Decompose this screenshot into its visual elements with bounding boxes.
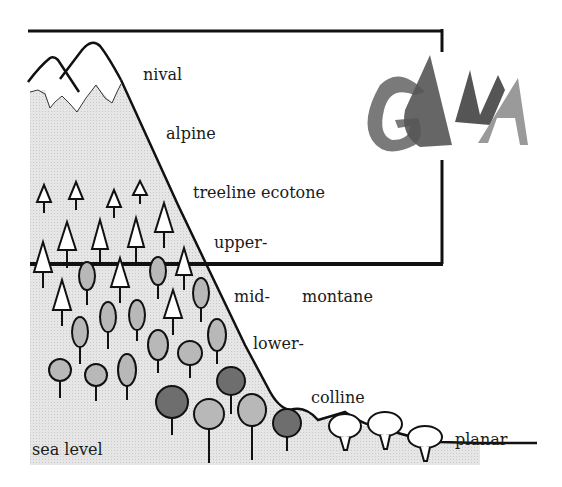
label-mid: mid- bbox=[234, 287, 270, 306]
vegetation-belts-diagram: nival alpine treeline ecotone upper- mid… bbox=[0, 0, 562, 487]
label-colline: colline bbox=[311, 388, 365, 407]
label-alpine: alpine bbox=[166, 124, 216, 143]
label-treeline-ecotone: treeline ecotone bbox=[193, 183, 325, 202]
label-nival: nival bbox=[143, 65, 182, 84]
mountain-peak-right bbox=[60, 43, 121, 80]
label-planar: planar bbox=[455, 430, 508, 449]
label-lower: lower- bbox=[253, 334, 304, 353]
label-upper: upper- bbox=[214, 233, 267, 252]
label-montane: montane bbox=[302, 287, 373, 306]
label-sea-level: sea level bbox=[32, 440, 103, 459]
gbma-logo bbox=[368, 55, 529, 151]
logo-letter-b bbox=[404, 55, 452, 147]
